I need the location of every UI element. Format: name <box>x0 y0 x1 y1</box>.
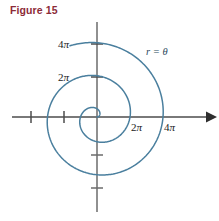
spiral-curve-r-equals-theta <box>47 43 163 175</box>
x-tick-label-4pi: 4π <box>164 121 176 133</box>
y-tick-label-2pi: 2π <box>58 71 70 83</box>
polar-plot-area: 4π 2π 2π 4π r = θ <box>0 0 219 221</box>
curve-equation-label: r = θ <box>146 46 168 57</box>
x-axis-arrow-icon <box>206 112 217 123</box>
x-tick-label-2pi: 2π <box>131 121 143 133</box>
figure-panel: Figure 15 4π 2π 2π 4π <box>0 0 219 221</box>
polar-spiral-chart: 4π 2π 2π 4π r = θ <box>0 0 219 221</box>
y-tick-label-4pi: 4π <box>58 38 70 50</box>
